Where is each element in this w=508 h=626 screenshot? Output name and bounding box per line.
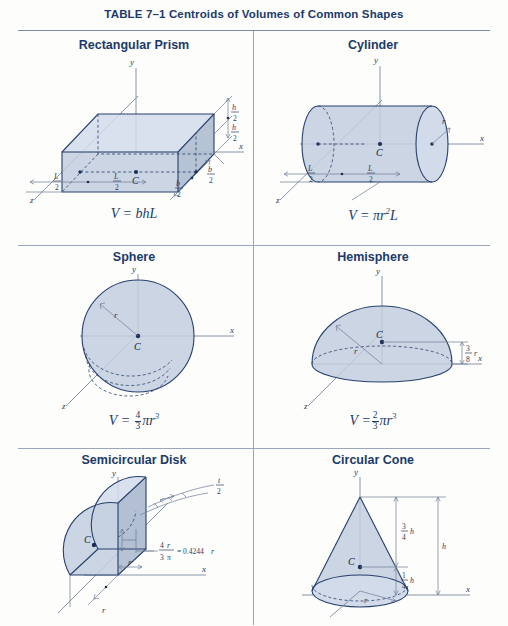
figure-sphere: C r y x z <box>18 264 250 410</box>
cell-semicircular-disk: Semicircular Disk C <box>18 453 250 626</box>
volume-formula-cylinder: V = πr2L <box>256 206 490 224</box>
svg-text:h: h <box>410 576 414 585</box>
volume-formula-rectangular-prism: V = bhL <box>18 206 250 222</box>
svg-text:z: z <box>61 401 66 410</box>
volume-formula-hemisphere: V =23πr3 <box>256 411 490 432</box>
svg-text:r: r <box>114 310 118 320</box>
svg-text:x: x <box>477 353 482 363</box>
table-column-divider <box>253 31 254 625</box>
svg-text:= 0.4244: = 0.4244 <box>177 547 204 556</box>
svg-text:x: x <box>201 564 206 574</box>
volume-formula-sphere: V = 43πr3 <box>18 411 250 432</box>
svg-text:C: C <box>376 147 383 158</box>
svg-text:2: 2 <box>233 134 237 143</box>
svg-text:2: 2 <box>217 487 221 496</box>
table-rule-row2 <box>18 448 490 449</box>
svg-text:C: C <box>132 175 139 186</box>
svg-text:y: y <box>111 468 116 478</box>
table-page: TABLE 7–1 Centroids of Volumes of Common… <box>0 0 508 626</box>
svg-text:3: 3 <box>402 522 406 531</box>
svg-text:z: z <box>29 195 34 204</box>
formula-tail: L <box>390 208 398 223</box>
shape-title-sphere: Sphere <box>18 250 250 264</box>
formula-exp: 3 <box>155 411 159 421</box>
cell-hemisphere: Hemisphere C r y x z <box>256 250 490 446</box>
formula-exp: 3 <box>392 411 396 421</box>
svg-text:2: 2 <box>177 190 181 199</box>
svg-text:4: 4 <box>160 541 164 550</box>
cell-circular-cone: Circular Cone C y x <box>256 453 490 626</box>
svg-text:L: L <box>53 172 59 181</box>
svg-text:1: 1 <box>402 571 406 580</box>
svg-text:C: C <box>348 556 355 567</box>
svg-text:2: 2 <box>233 114 237 123</box>
svg-text:L: L <box>113 172 119 181</box>
formula-lead: V = <box>350 413 371 428</box>
formula-denominator: 3 <box>372 422 379 432</box>
svg-text:8: 8 <box>466 355 470 364</box>
svg-text:3: 3 <box>466 344 470 353</box>
formula-lead: V = <box>109 413 134 428</box>
shape-title-rectangular-prism: Rectangular Prism <box>18 38 250 52</box>
shape-title-hemisphere: Hemisphere <box>256 250 490 264</box>
svg-text:π: π <box>167 553 171 562</box>
figure-rectangular-prism: C y x z h 2 h 2 <box>18 52 250 204</box>
svg-text:C: C <box>376 329 383 340</box>
svg-text:z: z <box>275 195 280 204</box>
svg-text:y: y <box>129 57 134 67</box>
formula-pi: π <box>380 413 387 428</box>
table-caption: TABLE 7–1 Centroids of Volumes of Common… <box>0 8 508 20</box>
svg-text:r: r <box>364 595 368 605</box>
shape-title-semicircular-disk: Semicircular Disk <box>18 453 250 467</box>
svg-text:2: 2 <box>309 175 313 184</box>
svg-text:z: z <box>303 401 308 410</box>
formula-fraction: 43 <box>135 411 142 432</box>
svg-text:r: r <box>167 541 171 550</box>
svg-text:2: 2 <box>55 183 59 192</box>
svg-text:4: 4 <box>402 533 406 542</box>
cell-sphere: Sphere C r y x z <box>18 250 250 446</box>
formula-fraction: 23 <box>372 411 379 432</box>
svg-text:x: x <box>238 141 243 151</box>
svg-text:y: y <box>353 467 358 477</box>
svg-text:r: r <box>211 547 215 556</box>
shape-title-cylinder: Cylinder <box>256 38 490 52</box>
svg-text:L: L <box>307 164 313 173</box>
svg-text:y: y <box>375 266 380 276</box>
svg-text:h: h <box>232 123 236 132</box>
svg-text:2: 2 <box>115 183 119 192</box>
svg-text:h: h <box>442 542 446 551</box>
figure-hemisphere: C r y x z 3 8 r <box>256 264 490 410</box>
svg-text:b: b <box>208 165 212 174</box>
formula-body: bhL <box>135 206 157 221</box>
svg-text:2: 2 <box>209 176 213 185</box>
svg-text:x: x <box>229 325 234 335</box>
svg-text:y: y <box>131 264 136 274</box>
svg-text:4: 4 <box>402 582 406 591</box>
svg-text:r: r <box>354 346 358 356</box>
svg-text:C: C <box>84 534 91 545</box>
svg-text:2: 2 <box>369 175 373 184</box>
svg-text:r: r <box>442 116 446 126</box>
svg-text:y: y <box>373 55 378 65</box>
svg-text:3: 3 <box>160 553 164 562</box>
svg-text:r: r <box>102 605 106 615</box>
svg-text:b: b <box>176 179 180 188</box>
cell-cylinder: Cylinder C y x z <box>256 38 490 243</box>
figure-circular-cone: C y x 3 4 h 1 4 h <box>256 467 490 619</box>
cell-rectangular-prism: Rectangular Prism <box>18 38 250 243</box>
shape-title-circular-cone: Circular Cone <box>256 453 490 467</box>
table-rule-top <box>18 30 490 31</box>
formula-lead: V = <box>348 208 373 223</box>
formula-lead: V = <box>111 206 136 221</box>
figure-cylinder: C y x z r L 2 L 2 <box>256 52 490 204</box>
formula-denominator: 3 <box>135 422 142 432</box>
svg-text:h: h <box>232 103 236 112</box>
svg-text:h: h <box>410 527 414 536</box>
svg-text:C: C <box>134 341 141 352</box>
svg-text:x: x <box>465 584 470 594</box>
table-rule-row1 <box>18 245 490 246</box>
svg-text:t: t <box>218 476 221 485</box>
figure-semicircular-disk: C y x t 2 4 r <box>18 467 250 619</box>
svg-text:L: L <box>367 164 373 173</box>
